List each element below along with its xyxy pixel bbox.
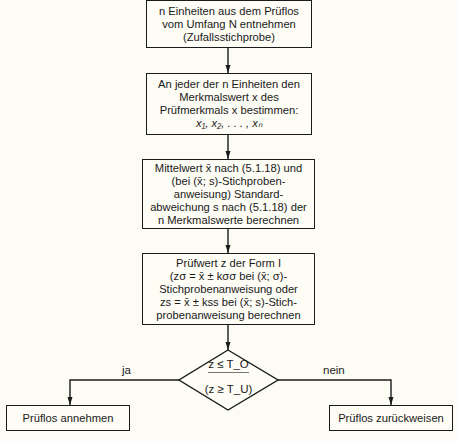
step-line: Stichprobenanweisung oder: [159, 283, 298, 296]
decision-condition: z ≤ T_O: [179, 358, 278, 373]
step-line: anweisung) Standard-: [174, 188, 283, 201]
no-branch-label: nein: [323, 364, 345, 377]
decision-condition-alt: (z ≥ T_U): [179, 383, 278, 396]
outcome-label: Prüflos annehmen: [23, 412, 114, 425]
step-line: Mittelwert x̄ nach (5.1.18) und: [155, 162, 302, 175]
step-line: n Einheiten aus dem Prüflos: [159, 5, 299, 18]
step-line: (Zufallsstichprobe): [183, 31, 275, 44]
step-draw-sample: n Einheiten aus dem Prüflos vom Umfang N…: [146, 0, 312, 48]
step-line: (zσ = x̄ ± kσσ bei (x̄; σ)-: [170, 270, 287, 283]
step-line: vom Umfang N entnehmen: [162, 18, 296, 31]
outcome-label: Prüflos zurückweisen: [338, 412, 444, 425]
step-compute-test-value: Prüfwert z der Form I (zσ = x̄ ± kσσ bei…: [142, 253, 315, 325]
step-line: n Merkmalswerte berechnen: [158, 214, 299, 227]
step-compute-mean-stddev: Mittelwert x̄ nach (5.1.18) und (bei (x̄…: [142, 159, 315, 229]
step-line: Prüfmerkmals x bestimmen:: [160, 104, 299, 117]
outcome-accept-lot: Prüflos annehmen: [6, 405, 130, 431]
step-line: probenanweisung berechnen: [156, 309, 300, 322]
decision-condition-lower: (z ≥ T_U): [205, 383, 253, 395]
step-line: Merkmalswert x des: [179, 91, 278, 104]
yes-branch-label: ja: [122, 364, 131, 377]
step-line: Prüfwert z der Form I: [176, 257, 281, 270]
outcome-reject-lot: Prüflos zurückweisen: [329, 405, 453, 431]
step-line: abweichung s nach (5.1.18) der: [150, 201, 307, 214]
step-measure-values: An jeder der n Einheiten den Merkmalswer…: [146, 73, 312, 135]
step-line: x₁, x₂, . . . , xₙ: [196, 117, 262, 130]
decision-condition-upper: z ≤ T_O: [208, 358, 249, 373]
step-line: An jeder der n Einheiten den: [158, 78, 300, 91]
step-line: (bei (x̄; s)-Stichproben-: [172, 175, 286, 188]
step-line: zs = x̄ ± kss bei (x̄; s)-Stich-: [160, 296, 297, 309]
